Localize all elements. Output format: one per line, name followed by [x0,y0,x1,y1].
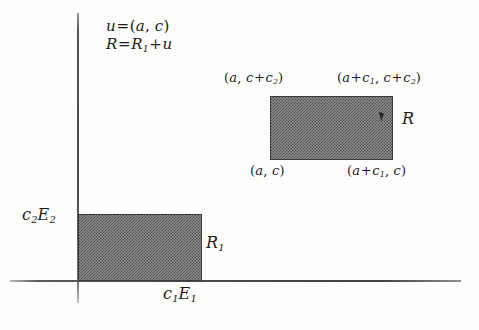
paren-close: ) [278,70,283,85]
rectangle-r1-shape [78,214,202,281]
coord-x-plus: + [350,70,362,85]
x-axis-tick-label: c1E1 [163,285,197,304]
equation-u-equals: = [116,17,130,35]
label-r1-base: R [206,233,218,252]
coord-y-term: c [403,70,410,85]
y-basis-subscript: 2 [49,214,55,225]
equation-block: u=(a, c) R=R1+u [106,18,172,54]
label-corner-top-left: (a, c+c2) [224,70,283,87]
paren-close: ) [416,70,421,85]
label-corner-bottom-right: (a+c1, c) [347,163,406,180]
equation-R-equals: = [118,35,132,53]
label-rectangle-r1: R1 [206,234,225,253]
x-coef: c [163,284,172,303]
coord-comma: , [375,70,384,85]
equation-u-comma: , [145,17,155,35]
paren-close: ) [279,163,284,178]
rectangle-r-shape [270,96,393,160]
figure-canvas: u=(a, c) R=R1+u (a, c+c2) (a+c1, c+c2) (… [0,0,479,330]
label-corner-top-right: (a+c1, c+c2) [337,70,421,87]
coord-y-plus: + [391,70,403,85]
equation-u-lhs: u [106,17,116,35]
coord-x-term: c [362,70,369,85]
equation-R: R=R1+u [106,36,172,55]
coord-comma: , [385,163,394,178]
equation-u-paren-close: ) [163,17,169,35]
equation-R-r1-subscript: 1 [143,42,149,53]
y-axis-tick-label: c2E2 [22,206,56,225]
equation-u: u=(a, c) [106,18,172,36]
x-basis-subscript: 1 [190,293,196,304]
x-basis: E [178,284,190,303]
equation-R-u: u [162,35,172,53]
equation-R-lhs: R [106,35,118,53]
y-coef: c [22,205,31,224]
coord-x-term: c [372,163,379,178]
coord-y-plus: + [253,70,265,85]
coord-y: c [394,163,401,178]
paren-close: ) [401,163,406,178]
equation-R-r1: R [131,35,143,53]
coord-comma: , [237,70,246,85]
equation-R-plus: + [149,35,163,53]
coord-y-term: c [265,70,272,85]
label-r1-subscript: 1 [218,242,224,253]
y-basis: E [37,205,49,224]
coord-comma: , [263,163,272,178]
label-corner-bottom-left: (a, c) [250,163,285,178]
equation-u-a: a [136,17,145,35]
label-rectangle-r: R [402,110,414,129]
coord-x-plus: + [360,163,372,178]
coord-y-base: c [384,70,391,85]
